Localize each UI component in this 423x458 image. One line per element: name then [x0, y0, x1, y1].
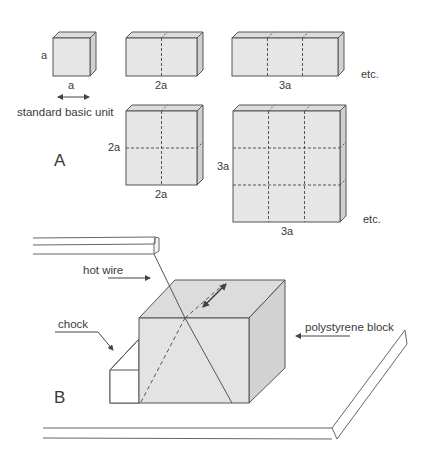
- unit-cube-shape: [53, 32, 96, 76]
- etc-label-2: etc.: [363, 214, 381, 225]
- square-3-width-label: 3a: [281, 226, 293, 237]
- unit-width-label: a: [68, 80, 74, 91]
- polystyrene-block-label: polystyrene block: [305, 322, 394, 334]
- unit-height-label: a: [41, 50, 47, 61]
- square-2-width-label: 2a: [155, 189, 167, 200]
- unit-caption: standard basic unit: [17, 107, 114, 119]
- triple-block-shape: [232, 32, 344, 76]
- chock-label: chock: [58, 319, 88, 331]
- polystyrene-block-shape: [139, 254, 285, 403]
- wire-support-bar: [33, 237, 159, 254]
- square-2x2-shape: [126, 105, 203, 185]
- etc-label-1: etc.: [361, 69, 379, 80]
- section-b-label: B: [54, 389, 65, 406]
- diagram-canvas: a a 2a 3a etc. standard basic unit A 2a …: [0, 0, 423, 458]
- square-3-height-label: 3a: [217, 161, 229, 172]
- square-3x3-shape: [233, 105, 346, 222]
- hot-wire-label: hot wire: [83, 265, 123, 277]
- triple-width-label: 3a: [279, 80, 291, 91]
- chock-shape: [110, 339, 139, 403]
- section-a-label: A: [54, 152, 65, 169]
- double-width-label: 2a: [155, 80, 167, 91]
- square-2-height-label: 2a: [108, 142, 120, 153]
- double-block-shape: [126, 32, 203, 76]
